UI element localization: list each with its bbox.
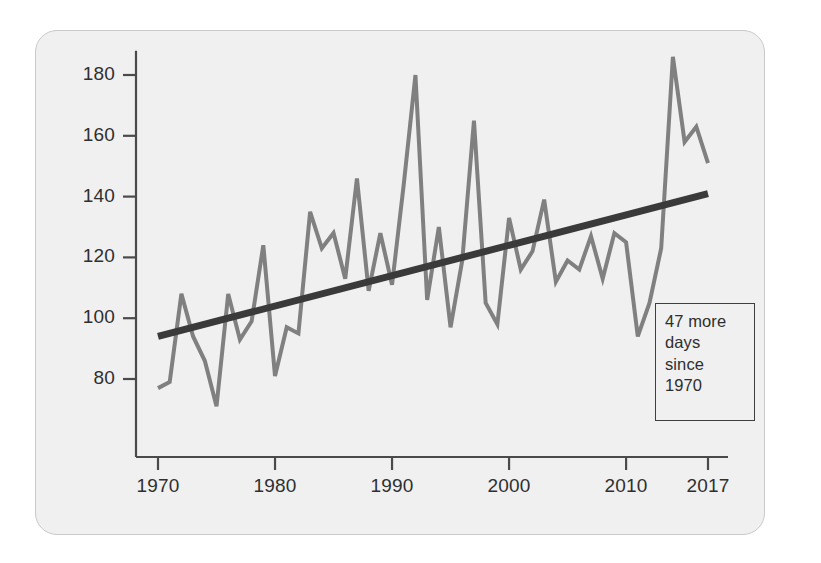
x-tick-label: 2000 [474,475,544,497]
x-tick-label: 2017 [673,475,743,497]
annotation-line-4: 1970 [665,375,754,396]
y-tick-label: 160 [55,124,115,146]
annotation-line-3: since [665,354,754,375]
annotation-box: 47 more days since 1970 [655,303,755,421]
y-tick-label: 180 [55,63,115,85]
y-tick-label: 120 [55,245,115,267]
y-tick-label: 140 [55,185,115,207]
x-tick-label: 1990 [357,475,427,497]
series-trend [158,194,708,337]
x-tick-label: 2010 [591,475,661,497]
annotation-line-2: days [665,332,754,353]
x-tick-label: 1980 [240,475,310,497]
annotation-line-1: 47 more [665,311,754,332]
series-annual-value [158,57,708,407]
x-tick-label: 1970 [123,475,193,497]
chart-series [158,57,708,407]
y-tick-label: 100 [55,306,115,328]
y-tick-label: 80 [55,367,115,389]
